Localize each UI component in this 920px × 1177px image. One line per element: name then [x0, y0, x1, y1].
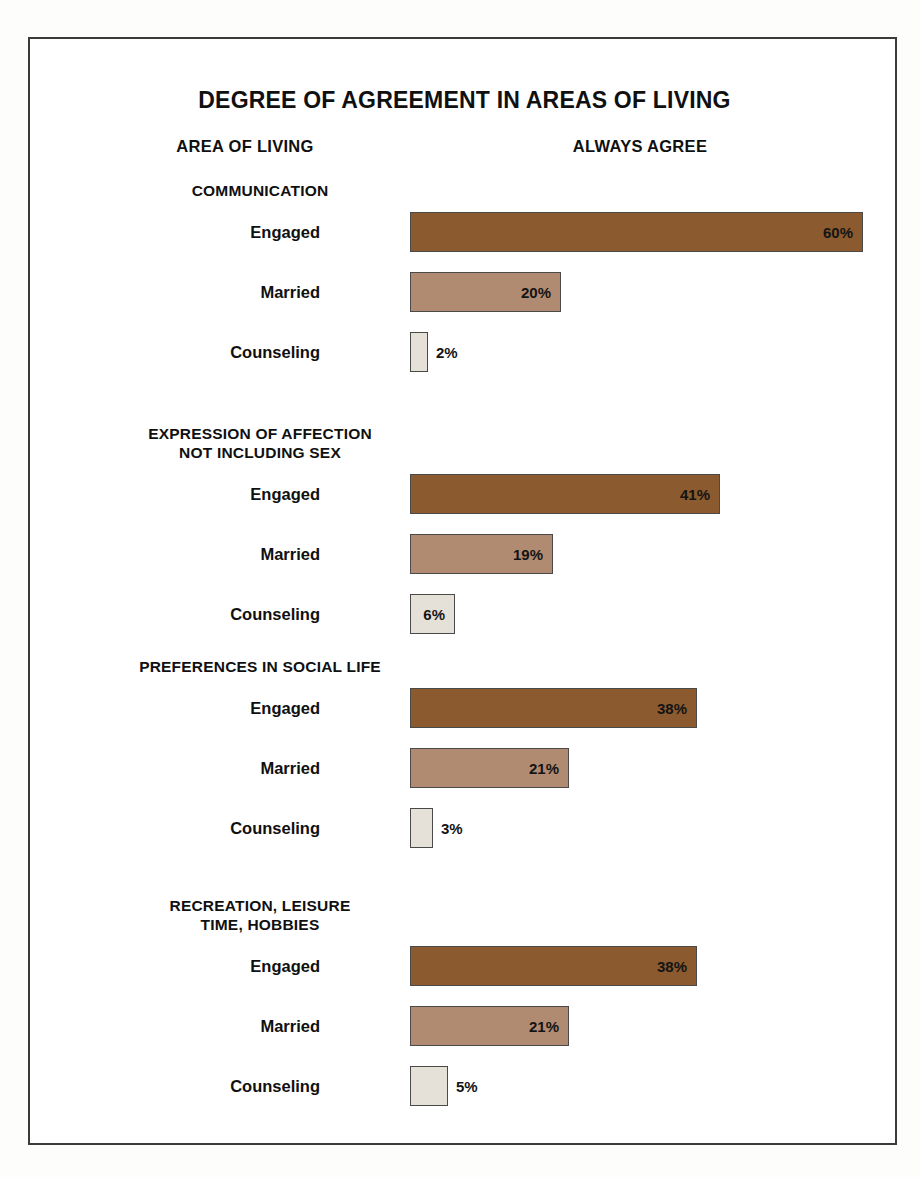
chart-row: Engaged41% [30, 472, 899, 516]
bar-value-label: 5% [456, 1078, 478, 1095]
chart-row: Counseling5% [30, 1064, 899, 1108]
row-label-married: Married [70, 270, 320, 314]
chart-row: Married21% [30, 1004, 899, 1048]
bar-married[interactable]: 19% [410, 534, 553, 574]
page-title: DEGREE OF AGREEMENT IN AREAS OF LIVING [30, 87, 899, 114]
bar-engaged[interactable]: 41% [410, 474, 720, 514]
bar-value-label: 19% [513, 546, 552, 563]
chart-frame: DEGREE OF AGREEMENT IN AREAS OF LIVING A… [28, 37, 897, 1145]
row-label-counseling: Counseling [70, 806, 320, 850]
bar-value-label: 38% [657, 958, 696, 975]
chart-row: Engaged38% [30, 944, 899, 988]
row-label-married: Married [70, 532, 320, 576]
chart-row: Counseling2% [30, 330, 899, 374]
chart-row: Married20% [30, 270, 899, 314]
bar-value-label: 21% [529, 760, 568, 777]
bar-value-label: 38% [657, 700, 696, 717]
row-label-married: Married [70, 746, 320, 790]
bar-wrapper: 6% [410, 592, 455, 636]
bar-married[interactable]: 21% [410, 1006, 569, 1046]
bar-wrapper: 2% [410, 330, 458, 374]
bar-wrapper: 3% [410, 806, 463, 850]
bar-married[interactable]: 20% [410, 272, 561, 312]
bar-counseling[interactable] [410, 1066, 448, 1106]
bar-counseling[interactable] [410, 332, 428, 372]
bar-wrapper: 20% [410, 270, 561, 314]
bar-value-label: 60% [823, 224, 862, 241]
chart-row: Counseling3% [30, 806, 899, 850]
bar-engaged[interactable]: 38% [410, 688, 697, 728]
bar-value-label: 3% [441, 820, 463, 837]
bar-engaged[interactable]: 38% [410, 946, 697, 986]
chart-row: Engaged38% [30, 686, 899, 730]
bar-wrapper: 41% [410, 472, 720, 516]
chart-row: Married19% [30, 532, 899, 576]
chart-row: Married21% [30, 746, 899, 790]
bar-value-label: 21% [529, 1018, 568, 1035]
bar-counseling[interactable] [410, 808, 433, 848]
row-label-married: Married [70, 1004, 320, 1048]
row-label-counseling: Counseling [70, 330, 320, 374]
row-label-engaged: Engaged [70, 472, 320, 516]
row-label-engaged: Engaged [70, 944, 320, 988]
bar-wrapper: 19% [410, 532, 553, 576]
group-title: COMMUNICATION [70, 181, 450, 200]
bar-wrapper: 38% [410, 686, 697, 730]
bar-wrapper: 5% [410, 1064, 478, 1108]
bar-value-label: 41% [680, 486, 719, 503]
group-title: EXPRESSION OF AFFECTION NOT INCLUDING SE… [70, 424, 450, 462]
bar-wrapper: 21% [410, 1004, 569, 1048]
row-label-engaged: Engaged [70, 686, 320, 730]
chart-row: Engaged60% [30, 210, 899, 254]
row-label-engaged: Engaged [70, 210, 320, 254]
bar-engaged[interactable]: 60% [410, 212, 863, 252]
chart-row: Counseling6% [30, 592, 899, 636]
bar-married[interactable]: 21% [410, 748, 569, 788]
bar-wrapper: 21% [410, 746, 569, 790]
group-title: PREFERENCES IN SOCIAL LIFE [70, 657, 450, 676]
bar-value-label: 6% [423, 606, 454, 623]
chart-page: DEGREE OF AGREEMENT IN AREAS OF LIVING A… [0, 0, 920, 1177]
group-title: RECREATION, LEISURE TIME, HOBBIES [70, 896, 450, 934]
bar-value-label: 2% [436, 344, 458, 361]
row-label-counseling: Counseling [70, 592, 320, 636]
bar-wrapper: 38% [410, 944, 697, 988]
row-label-counseling: Counseling [70, 1064, 320, 1108]
column-header-area-of-living: AREA OF LIVING [120, 137, 370, 156]
bar-counseling[interactable]: 6% [410, 594, 455, 634]
bar-wrapper: 60% [410, 210, 863, 254]
column-header-always-agree: ALWAYS AGREE [515, 137, 765, 156]
bar-value-label: 20% [521, 284, 560, 301]
